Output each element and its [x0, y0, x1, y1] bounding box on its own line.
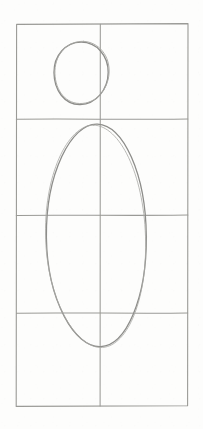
grid-group [16, 24, 188, 407]
torso-ellipse-group [43, 124, 149, 349]
sketch-canvas [0, 0, 203, 429]
sketch-drawing [0, 0, 203, 429]
head-circle-group [53, 40, 110, 105]
